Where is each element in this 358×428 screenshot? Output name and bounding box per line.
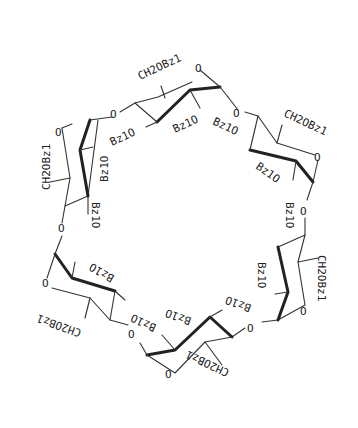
glucose-unit-upper-right: O O CH2OBz1 Bz1O Bz1O [211,97,330,200]
o2-label: Bz1O [224,293,253,314]
glucose-unit-upper-left: O O CH2OBz1 Bz1O Bz1O [40,117,112,235]
glucose-unit-top: O O CH2OBz1 Bz1O Bz1O [108,51,228,148]
ring-oxygen: O [195,62,202,75]
o3-label: Bz1O [87,260,116,285]
ring-oxygen: O [300,305,307,318]
glycosidic-oxygen: O [128,328,135,341]
ch2-label: CH2OBz1 [282,107,330,138]
ch2-label: CH2OBz1 [35,311,83,339]
ring-oxygen: O [314,151,321,164]
o2-label: Bz1O [98,156,111,183]
ch2-label: CH2OBz1 [315,255,328,301]
glycosidic-oxygen: O [300,205,307,218]
glycosidic-oxygen: O [247,322,254,335]
o3-label: Bz1O [253,160,282,186]
ring-oxygen: O [55,126,62,139]
o3-label: Bz1O [164,306,193,327]
ch2-label: CH2OBz1 [184,348,232,379]
glycosidic-oxygen: O [233,107,240,120]
glucose-unit-bottom: O O CH2OBz1 Bz1O Bz1O [140,293,254,381]
ring-oxygen: O [165,368,172,381]
o2-label: Bz1O [283,202,296,229]
o2-label: Bz1O [108,126,138,149]
o3-label: Bz1O [255,262,268,289]
glucose-unit-lower-left: O O CH2OBz1 Bz1O Bz1O [35,236,158,341]
glucose-unit-lower-right: O O CH2OBz1 Bz1O Bz1O [255,202,328,322]
structure-svg: O O CH2OBz1 Bz1O Bz1O O O CH2OBz1 Bz1O B… [0,0,358,428]
ch2-label: CH2OBz1 [136,51,184,82]
ch2-label: CH2OBz1 [40,144,53,190]
glycosidic-oxygen: O [58,222,65,235]
o3-label: Bz1O [89,202,102,229]
ring-oxygen: O [42,277,49,290]
glycosidic-oxygen: O [110,108,117,121]
cyclodextrin-structure-diagram: O O CH2OBz1 Bz1O Bz1O O O CH2OBz1 Bz1O B… [0,0,358,428]
o3-label: Bz1O [171,113,201,136]
